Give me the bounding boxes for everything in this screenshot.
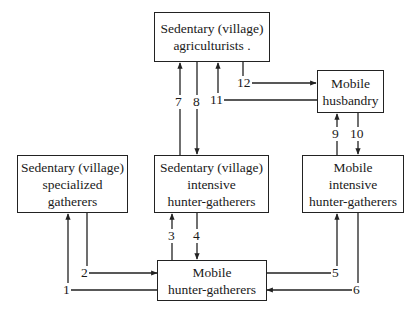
node-specialized-gatherers: Sedentary (village) specialized gatherer… xyxy=(17,155,128,213)
node-text: intensive xyxy=(187,176,236,193)
node-text: hunter-gatherers xyxy=(309,193,397,210)
edge-label-2: 2 xyxy=(80,266,89,280)
node-text: Mobile xyxy=(193,264,232,281)
node-mobile-hunter-gatherers: Mobile hunter-gatherers xyxy=(157,260,267,301)
edge-label-10: 10 xyxy=(349,127,365,141)
node-text: Sedentary (village) xyxy=(21,159,124,176)
node-text: Mobile xyxy=(331,75,370,92)
edge-label-6: 6 xyxy=(352,283,361,297)
node-mobile-intensive: Mobile intensive hunter-gatherers xyxy=(302,155,404,213)
node-text: hunter-gatherers xyxy=(167,193,255,210)
edge-label-8: 8 xyxy=(192,95,201,109)
node-text: hunter-gatherers xyxy=(168,281,256,298)
edge-label-5: 5 xyxy=(331,266,340,280)
edge-label-7: 7 xyxy=(174,95,183,109)
node-text: gatherers xyxy=(48,193,97,210)
node-text: Sedentary (village) xyxy=(160,20,263,37)
node-text: agriculturists . xyxy=(173,37,250,54)
edge-label-4: 4 xyxy=(192,229,201,243)
node-text: husbandry xyxy=(322,92,378,109)
edge-11 xyxy=(218,63,317,100)
node-text: Mobile xyxy=(334,159,373,176)
edge-5 xyxy=(266,214,337,273)
node-sedentary-intensive: Sedentary (village) intensive hunter-gat… xyxy=(154,155,269,213)
edge-label-11: 11 xyxy=(209,93,224,107)
node-agriculturists: Sedentary (village) agriculturists . xyxy=(154,12,270,62)
edge-label-12: 12 xyxy=(236,76,252,90)
node-text: Sedentary (village) xyxy=(160,159,263,176)
node-text: intensive xyxy=(329,176,378,193)
edge-6 xyxy=(267,213,358,290)
edge-12 xyxy=(243,62,316,83)
node-mobile-husbandry: Mobile husbandry xyxy=(317,70,384,113)
edge-2 xyxy=(87,213,157,273)
node-text: specialized xyxy=(43,176,103,193)
edge-label-1: 1 xyxy=(62,283,71,297)
edge-label-3: 3 xyxy=(167,229,176,243)
edge-label-9: 9 xyxy=(331,127,340,141)
